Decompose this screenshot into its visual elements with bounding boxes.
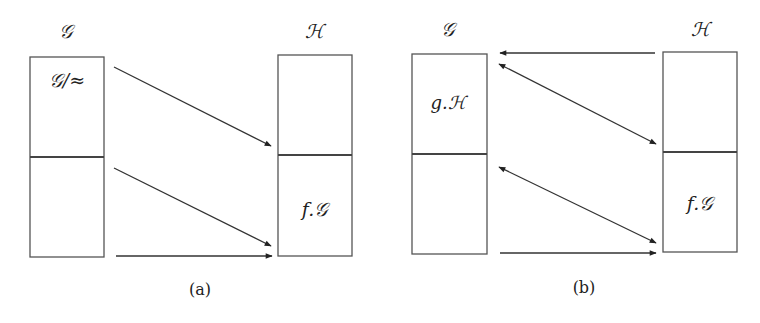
set-g-top-label: g.ℋ [430, 92, 468, 113]
panel-a: 𝒢 ℋ 𝒢/≈ f.𝒢 (a) [30, 20, 352, 299]
set-g-top-label: 𝒢/≈ [49, 69, 85, 91]
diagram-canvas: 𝒢 ℋ 𝒢/≈ f.𝒢 (a) 𝒢 ℋ g.ℋ f.𝒢 (b) [0, 0, 760, 323]
set-g-title: 𝒢 [441, 18, 458, 40]
set-h-bottom-label: f.𝒢 [685, 192, 716, 214]
double-arrow-top [499, 64, 656, 144]
caption-b: (b) [573, 278, 596, 297]
double-arrow-bottom [499, 167, 656, 243]
set-h-title: ℋ [305, 20, 327, 42]
arrow-divider-to-bottom [114, 168, 271, 246]
panel-b: 𝒢 ℋ g.ℋ f.𝒢 (b) [412, 18, 737, 297]
caption-a: (a) [189, 280, 211, 299]
arrow-top-to-divider [114, 67, 271, 146]
set-h-bottom-label: f.𝒢 [300, 198, 331, 220]
set-h-title: ℋ [691, 18, 713, 40]
set-g-title: 𝒢 [59, 20, 76, 42]
